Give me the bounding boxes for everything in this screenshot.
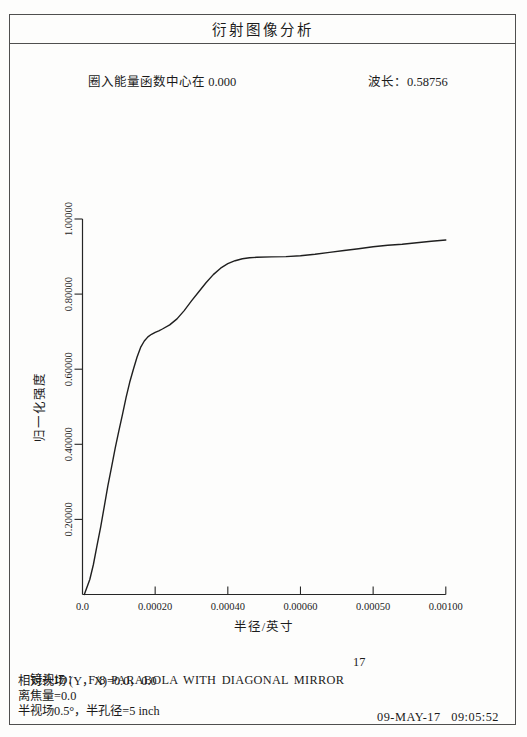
report-page: 衍射图像分析 圈入能量函数中心在 0.000 波长：0.58756 0.2000… [0,0,527,737]
page-border [9,14,516,725]
timestamp: 09-MAY-17 09:05:52 [377,710,499,725]
wavelength-text: 波长：0.58756 [368,71,448,90]
page-title: 衍射图像分析 [212,18,314,39]
page-number: 17 [353,655,365,670]
title-band: 衍射图像分析 [9,14,516,44]
half-field-line: 半视场0.5°，半孔径=5 inch [18,701,160,719]
encircled-energy-center-text: 圈入能量函数中心在 0.000 [88,71,236,90]
